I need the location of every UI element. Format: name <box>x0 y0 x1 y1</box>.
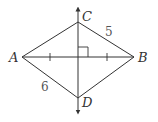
right-angle-mark <box>78 47 88 57</box>
diagram: A B C D 5 6 <box>0 0 158 122</box>
length-label-CB: 5 <box>105 25 113 39</box>
label-B: B <box>137 50 148 65</box>
geometry-figure: A B C D 5 6 <box>0 0 158 122</box>
label-C: C <box>82 9 92 24</box>
label-A: A <box>8 50 18 65</box>
length-label-AD: 6 <box>41 80 49 94</box>
label-D: D <box>81 95 93 110</box>
